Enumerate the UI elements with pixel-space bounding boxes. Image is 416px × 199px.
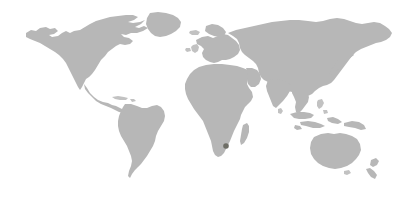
world-map-graphic <box>0 0 416 199</box>
world-map-figure: World map with highlighted location Sout… <box>0 0 416 199</box>
location-marker[interactable] <box>223 143 229 149</box>
